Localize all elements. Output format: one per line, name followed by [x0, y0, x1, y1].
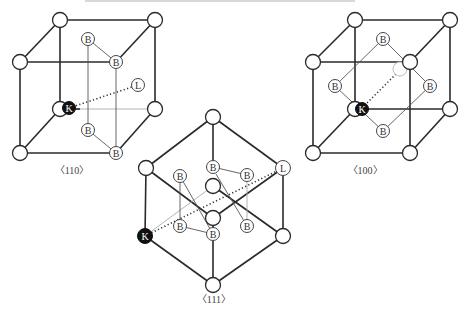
center-atom	[206, 211, 221, 226]
k-label: K	[141, 231, 149, 242]
center-atom	[206, 179, 221, 194]
b-label: B	[244, 170, 251, 181]
corner-atom	[443, 102, 458, 117]
b-label: B	[427, 81, 434, 92]
corner-atom	[443, 13, 458, 28]
panel-110: B B B B L K 〈110〉	[13, 13, 163, 177]
b-label: B	[210, 162, 217, 173]
corner-atom	[306, 55, 321, 70]
b-label: B	[244, 221, 251, 232]
b-label: B	[85, 34, 92, 45]
crystal-diagram: B B B B L K 〈110〉	[0, 0, 469, 314]
corner-atom	[306, 146, 321, 161]
l-label: L	[280, 163, 286, 174]
corner-atom	[13, 146, 28, 161]
corner-atom	[13, 55, 28, 70]
corner-atom	[403, 55, 418, 70]
b-label: B	[85, 125, 92, 136]
corner-atom	[148, 102, 163, 117]
corner-atom	[276, 229, 291, 244]
corner-atom	[53, 13, 68, 28]
b-label: B	[177, 171, 184, 182]
b-label: B	[177, 221, 184, 232]
corner-atom	[348, 13, 363, 28]
k-label: K	[358, 104, 366, 115]
corner-atom	[206, 110, 221, 125]
b-label: B	[113, 148, 120, 159]
panel-100: B B B B K 〈100〉	[306, 13, 458, 177]
corner-atom	[206, 278, 221, 293]
caption-110: 〈110〉	[55, 165, 90, 176]
k-label: K	[65, 103, 73, 114]
corner-atom	[148, 13, 163, 28]
caption-111: 〈111〉	[197, 294, 231, 305]
l-label: L	[135, 80, 141, 91]
corner-atom	[139, 161, 154, 176]
corner-atom	[403, 146, 418, 161]
b-label: B	[210, 229, 217, 240]
b-label: B	[113, 57, 120, 68]
caption-100: 〈100〉	[348, 165, 383, 176]
b-label: B	[380, 126, 387, 137]
b-label: B	[332, 81, 339, 92]
b-label: B	[380, 34, 387, 45]
panel-111: B B B B B B L K 〈111〉	[138, 110, 291, 306]
